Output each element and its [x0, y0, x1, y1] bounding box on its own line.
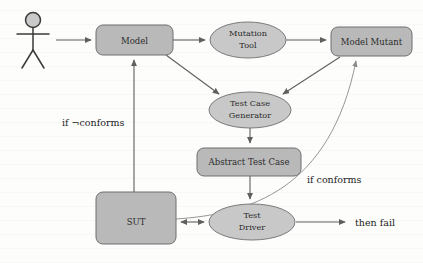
node-model-label: Model: [121, 36, 148, 46]
node-mutation-tool-label-line1: Mutation: [229, 28, 268, 38]
node-model-mutant[interactable]: Model Mutant: [331, 27, 412, 56]
edge-label-if-conforms: if conforms: [307, 174, 362, 185]
node-test-driver-label-line1: Test: [243, 210, 261, 220]
node-sut[interactable]: SUT: [96, 192, 176, 244]
workflow-diagram: Model Mutation Tool Model Mutant Test Ca…: [0, 0, 423, 263]
edge-sut-to-model-mutant-if-conforms: [176, 61, 356, 219]
node-model-mutant-label: Model Mutant: [341, 37, 403, 47]
edge-model-to-test-case-generator: [166, 55, 219, 94]
node-abstract-test-case[interactable]: Abstract Test Case: [197, 148, 301, 176]
node-sut-label: SUT: [127, 217, 146, 227]
edge-label-if-not-conforms: if ¬conforms: [62, 117, 124, 128]
node-test-case-generator[interactable]: Test Case Generator: [209, 92, 291, 128]
node-mutation-tool[interactable]: Mutation Tool: [210, 22, 286, 58]
edge-label-then-fail: then fail: [355, 217, 395, 228]
user-actor-icon: [17, 13, 49, 69]
node-test-case-generator-label-line2: Generator: [229, 110, 272, 120]
diagram-canvas: Model Mutation Tool Model Mutant Test Ca…: [0, 0, 423, 263]
node-mutation-tool-label-line2: Tool: [239, 40, 257, 50]
node-abstract-test-case-label: Abstract Test Case: [208, 157, 290, 167]
edge-model-mutant-to-test-case-generator: [283, 57, 340, 94]
node-model[interactable]: Model: [96, 25, 173, 55]
node-test-driver-label-line2: Driver: [239, 222, 266, 232]
node-test-driver[interactable]: Test Driver: [209, 204, 295, 240]
node-test-case-generator-label-line1: Test Case: [230, 98, 270, 108]
